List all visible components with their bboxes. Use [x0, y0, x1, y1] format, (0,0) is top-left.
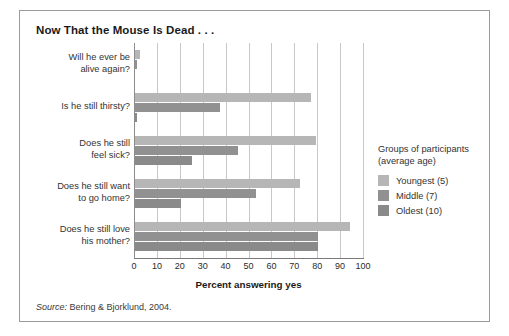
category-label: Does he still lovehis mother? — [26, 224, 130, 247]
bar — [135, 189, 256, 198]
category-label-line: feel sick? — [26, 150, 130, 162]
bar — [135, 103, 220, 112]
category-label-line: Is he still thirsty? — [26, 101, 130, 113]
bar-group — [134, 136, 363, 166]
gridline-100 — [363, 43, 364, 258]
bar — [135, 199, 181, 208]
legend: Groups of participants (average age) You… — [378, 144, 486, 220]
category-label: Will he ever bealive again? — [26, 52, 130, 75]
figure-frame: Now That the Mouse Is Dead . . . Will he… — [19, 10, 490, 322]
category-label-line: alive again? — [26, 64, 130, 76]
bar-row — [134, 179, 363, 188]
bar-group — [134, 179, 363, 209]
bar — [135, 60, 137, 69]
bar — [135, 146, 238, 155]
bar-row — [134, 113, 363, 122]
x-tick-label-30: 30 — [198, 261, 208, 271]
bar-row — [134, 70, 363, 79]
x-axis-title: Percent answering yes — [134, 279, 363, 290]
legend-item[interactable]: Middle (7) — [378, 190, 486, 201]
bar — [135, 156, 192, 165]
plot-area — [134, 43, 363, 258]
category-label-line: to go home? — [26, 193, 130, 205]
bar-row — [134, 156, 363, 165]
legend-title-line-2: (average age) — [378, 156, 486, 168]
category-label-line: his mother? — [26, 236, 130, 248]
x-tick-label-50: 50 — [243, 261, 253, 271]
x-tick-label-40: 40 — [221, 261, 231, 271]
source-citation: Bering & Bjorklund, 2004. — [67, 302, 172, 312]
legend-item[interactable]: Youngest (5) — [378, 175, 486, 186]
legend-swatch-icon — [378, 175, 389, 186]
bar — [135, 136, 316, 145]
bar — [135, 222, 350, 231]
category-label-line: Does he still love — [26, 224, 130, 236]
bar-row — [134, 50, 363, 59]
bar-row — [134, 242, 363, 251]
chart-title: Now That the Mouse Is Dead . . . — [36, 24, 214, 36]
legend-swatch-icon — [378, 205, 389, 216]
bar-row — [134, 136, 363, 145]
x-axis-tick-labels: 0102030405060708090100 — [134, 261, 363, 275]
category-label: Does he stillfeel sick? — [26, 138, 130, 161]
x-tick-label-100: 100 — [355, 261, 370, 271]
legend-label: Youngest (5) — [396, 176, 448, 186]
source-label: Source: — [36, 302, 67, 312]
bar — [135, 179, 300, 188]
legend-item[interactable]: Oldest (10) — [378, 205, 486, 216]
category-label-line: Does he still want — [26, 181, 130, 193]
bar — [135, 50, 140, 59]
bar-group — [134, 93, 363, 123]
bar-row — [134, 60, 363, 69]
bar-row — [134, 146, 363, 155]
legend-items: Youngest (5)Middle (7)Oldest (10) — [378, 175, 486, 216]
category-label-line: Will he ever be — [26, 52, 130, 64]
source-note: Source: Bering & Bjorklund, 2004. — [36, 302, 172, 312]
legend-label: Middle (7) — [396, 191, 437, 201]
x-axis-baseline — [134, 258, 364, 259]
legend-title: Groups of participants (average age) — [378, 144, 486, 167]
x-tick-label-10: 10 — [152, 261, 162, 271]
bar-row — [134, 93, 363, 102]
legend-label: Oldest (10) — [396, 206, 442, 216]
bar-row — [134, 103, 363, 112]
bar-row — [134, 189, 363, 198]
category-axis-labels: Will he ever bealive again?Is he still t… — [26, 43, 130, 258]
x-tick-label-70: 70 — [289, 261, 299, 271]
bar-group — [134, 50, 363, 80]
bar — [135, 93, 311, 102]
x-tick-label-20: 20 — [175, 261, 185, 271]
bar — [135, 242, 318, 251]
x-tick-label-60: 60 — [266, 261, 276, 271]
legend-title-line-1: Groups of participants — [378, 144, 486, 156]
bar-row — [134, 199, 363, 208]
x-tick-label-90: 90 — [335, 261, 345, 271]
category-label: Is he still thirsty? — [26, 101, 130, 113]
x-tick-label-80: 80 — [312, 261, 322, 271]
category-label-line: Does he still — [26, 138, 130, 150]
bar-group — [134, 222, 363, 252]
bar — [135, 113, 137, 122]
bar-row — [134, 222, 363, 231]
legend-swatch-icon — [378, 190, 389, 201]
category-label: Does he still wantto go home? — [26, 181, 130, 204]
x-tick-label-0: 0 — [131, 261, 136, 271]
bar-row — [134, 232, 363, 241]
bar — [135, 232, 318, 241]
